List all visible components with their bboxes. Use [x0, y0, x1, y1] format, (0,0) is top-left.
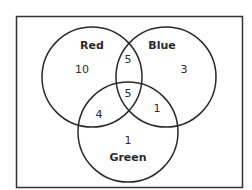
- blue-green-value: 1: [154, 102, 161, 115]
- red-blue-value: 5: [125, 53, 132, 66]
- red-label: Red: [80, 39, 104, 52]
- red-green-value: 4: [96, 108, 103, 121]
- red-blue-green-value: 5: [125, 87, 132, 100]
- green-label: Green: [109, 151, 146, 164]
- blue-label: Blue: [148, 39, 175, 52]
- red-only-value: 10: [75, 63, 89, 76]
- green-only-value: 1: [125, 134, 132, 147]
- venn-diagram: Red Blue Green 10 3 1 5 4 1 5: [0, 0, 252, 190]
- blue-only-value: 3: [181, 63, 188, 76]
